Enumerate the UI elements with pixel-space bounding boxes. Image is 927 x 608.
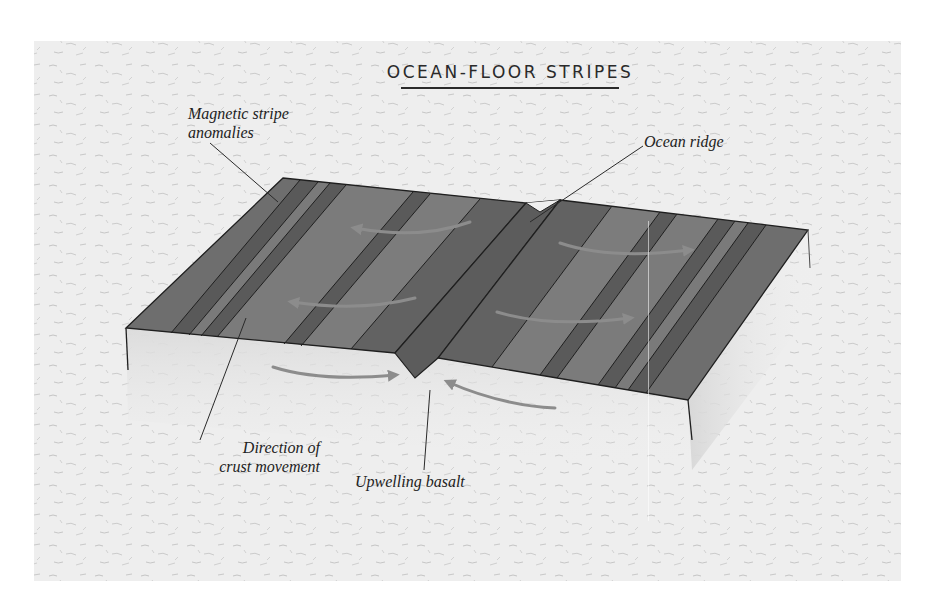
label-direction-of-crust-movement: Direction of crust movement bbox=[152, 438, 320, 476]
title-underline bbox=[401, 87, 619, 89]
ocean-floor-diagram bbox=[34, 41, 901, 581]
label-ocean-ridge: Ocean ridge bbox=[644, 132, 724, 151]
label-line: anomalies bbox=[188, 123, 289, 142]
scan-line bbox=[648, 221, 649, 521]
label-magnetic-stripe-anomalies: Magnetic stripe anomalies bbox=[188, 104, 289, 142]
label-line: Magnetic stripe bbox=[188, 104, 289, 123]
diagram-title: OCEAN-FLOOR STRIPES bbox=[380, 62, 640, 82]
label-upwelling-basalt: Upwelling basalt bbox=[355, 472, 465, 491]
diagram-panel bbox=[34, 41, 901, 581]
label-line: Direction of bbox=[152, 438, 320, 457]
label-line: crust movement bbox=[152, 457, 320, 476]
